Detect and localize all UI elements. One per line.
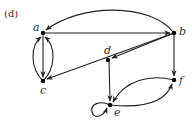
node-e	[108, 103, 112, 107]
label-a: a	[33, 21, 40, 34]
label-e: e	[114, 106, 121, 119]
label-d: d	[104, 44, 111, 57]
directed-graph: (d) a b c d	[0, 0, 192, 128]
node-a	[41, 31, 45, 35]
edge-c-a-right	[43, 37, 53, 81]
edge-e-e	[92, 103, 110, 117]
edge-b-d	[112, 33, 174, 58]
edge-f-e	[113, 78, 174, 102]
node-f	[172, 78, 176, 82]
label-f: f	[178, 74, 185, 87]
label-b: b	[179, 25, 186, 38]
panel-label: (d)	[4, 8, 18, 19]
node-d	[106, 58, 110, 62]
edge-c-a-left	[33, 37, 43, 81]
node-c	[41, 79, 45, 83]
label-c: c	[40, 84, 46, 97]
edge-b-a	[46, 10, 174, 33]
edge-d-e	[109, 60, 110, 101]
edge-e-f	[110, 84, 172, 106]
node-b	[172, 31, 176, 35]
